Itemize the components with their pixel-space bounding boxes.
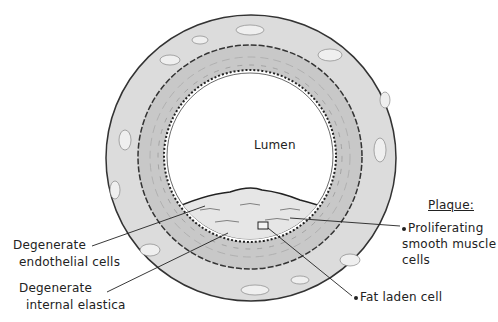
plaque-heading: Plaque: [428, 198, 474, 213]
bullet-icon [354, 296, 358, 300]
plaque-item-fat-laden-cell: Fat laden cell [360, 290, 442, 305]
artery-illustration [0, 0, 498, 322]
elastica-label-line2: internal elastica [26, 298, 126, 313]
lumen-label: Lumen [254, 138, 296, 153]
endothelial-label-line1: Degenerate [13, 238, 86, 253]
plaque-item-smooth-muscle-line2: smooth muscle [402, 237, 496, 252]
fat-laden-cell [258, 222, 268, 229]
elastica-label-line1: Degenerate [19, 281, 92, 296]
bullet-icon [402, 227, 406, 231]
plaque-item-smooth-muscle-line1: Proliferating [408, 221, 483, 236]
endothelial-label-line2: endothelial cells [19, 255, 120, 270]
plaque-item-smooth-muscle-line3: cells [402, 253, 430, 268]
